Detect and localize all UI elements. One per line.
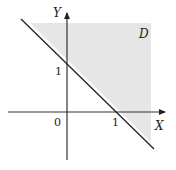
x-tick-label: 1 <box>112 116 119 129</box>
x-axis-label: X <box>154 119 164 133</box>
y-axis-label: Y <box>53 6 62 20</box>
y-tick-label: 1 <box>55 65 62 78</box>
origin-label: 0 <box>54 116 61 129</box>
shaded-region-d <box>30 23 151 142</box>
coordinate-diagram: D Y X 0 1 1 <box>0 0 176 170</box>
region-label: D <box>138 27 149 41</box>
